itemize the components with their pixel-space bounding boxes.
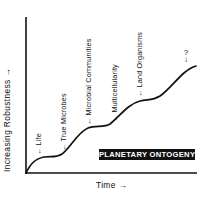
down-arrow-icon: ↓ <box>181 56 191 64</box>
stage-label-life: ← Life <box>34 133 43 155</box>
stage-label-true-microbes: ← True Microbes <box>59 93 68 151</box>
diagram-canvas <box>0 0 208 197</box>
y-axis-label: Increasing Robustness → <box>2 68 12 172</box>
stage-label-multicellularity: ← Multicellularity <box>110 64 119 122</box>
planetary-ontogeny-diagram: Increasing Robustness → Time → ← Life ← … <box>0 0 208 197</box>
stage-label-microbial-communities: ← Microbial Communities <box>84 39 93 125</box>
stage-label-land-organisms: ← Land Organisms <box>135 32 144 97</box>
diagram-title: PLANETARY ONTOGENY <box>99 149 195 160</box>
x-axis-label: Time → <box>96 180 127 190</box>
